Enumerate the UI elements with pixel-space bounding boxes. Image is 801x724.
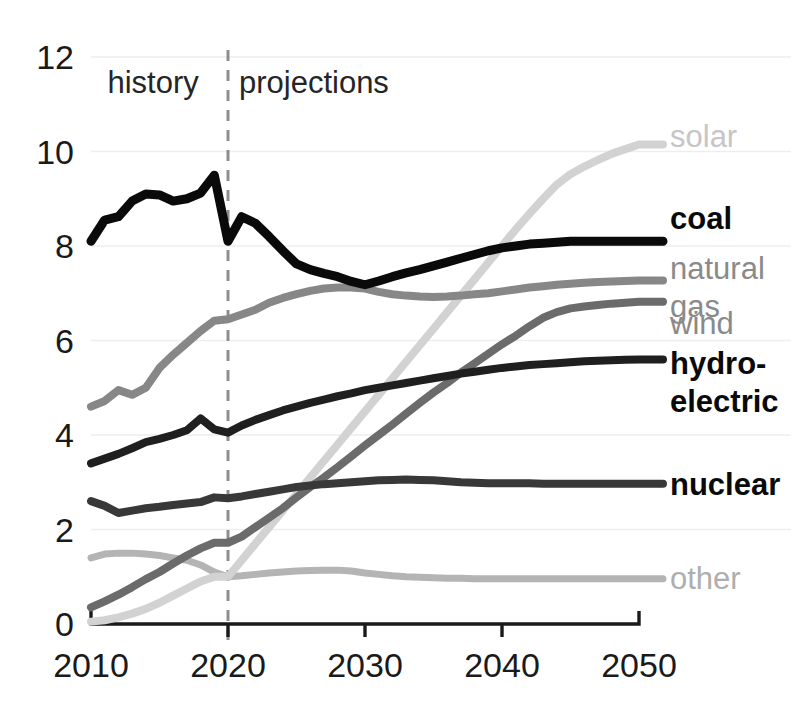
y-tick-label-10: 10 [36,133,74,171]
legend-label-nuclear: nuclear [670,467,780,502]
x-tick-label-2030: 2030 [327,646,403,684]
x-axis-line [91,611,639,624]
phase-label-history: history [107,65,199,100]
legend-label-wind: wind [669,306,734,341]
phase-annotations: historyprojections [107,65,388,100]
y-tick-label-8: 8 [55,227,74,265]
y-tick-label-6: 6 [55,322,74,360]
phase-label-projections: projections [239,65,389,100]
energy-mix-line-chart: 024681012 20102020203020402050 historypr… [0,0,801,724]
series-line-hydro-electric [91,359,663,463]
legend-label-hydro-electric: hydro- [670,346,766,381]
legend-label-solar: solar [670,119,737,154]
series-legend: solarcoalnaturalgaswindhydro-electricnuc… [669,119,780,596]
axis-lines [91,611,639,637]
x-tick-label-2020: 2020 [190,646,266,684]
series-line-solar [91,144,663,621]
y-tick-label-0: 0 [55,605,74,643]
x-tick-label-2040: 2040 [464,646,540,684]
chart-svg: 024681012 20102020203020402050 historypr… [0,0,801,724]
y-tick-label-2: 2 [55,511,74,549]
legend-label-coal: coal [670,201,732,236]
x-axis-tick-labels: 20102020203020402050 [53,646,677,684]
x-tick-label-2010: 2010 [53,646,129,684]
x-tick-label-2050: 2050 [601,646,677,684]
data-series-group [91,144,663,621]
y-tick-label-4: 4 [55,416,74,454]
y-axis-tick-labels: 024681012 [36,38,74,643]
legend-label-hydro-electric: electric [670,384,779,419]
legend-label-natural-gas: natural [670,251,765,286]
series-line-coal [91,175,663,285]
series-line-nuclear [91,479,663,513]
y-tick-label-12: 12 [36,38,74,76]
legend-label-other: other [670,561,741,596]
